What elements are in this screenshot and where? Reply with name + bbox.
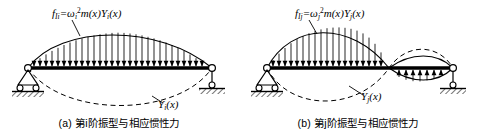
- panel-mode-i: fIi=ωi2m(x)Yi(x) Yi(x): [0, 0, 238, 140]
- leader-line-force-j: [309, 20, 317, 34]
- mode-shape-curve-i: [28, 68, 212, 106]
- figure-mode-shapes: fIi=ωi2m(x)Yi(x) Yi(x): [0, 0, 477, 140]
- force-envelope-j-lobe2-top: [389, 56, 453, 68]
- caption-panel-a: (a) 第i阶振型与相应惯性力: [0, 115, 238, 130]
- diagram-svg-i: [0, 0, 238, 118]
- arrowheads-i: [32, 61, 205, 67]
- leader-line-mode-j: [349, 86, 363, 95]
- arrowheads-j-lobe1: [271, 61, 384, 67]
- panel-mode-j: fIj=ωj2m(x)Yj(x) Yj(x): [239, 0, 477, 140]
- diagram-svg-j: [239, 0, 477, 118]
- leader-line-force-i: [72, 20, 80, 36]
- arrowheads-j-lobe2: [397, 70, 444, 76]
- inertia-force-arrows-j-lobe1: [273, 27, 381, 66]
- caption-panel-b: (b) 第j阶振型与相应惯性力: [239, 115, 477, 130]
